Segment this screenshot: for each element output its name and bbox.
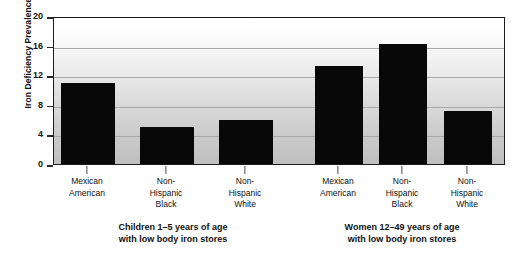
y-tick-label-0: 0 <box>38 159 43 169</box>
x-tick-mark-5 <box>466 166 467 174</box>
group-caption-line-1: Women 12–49 years of age <box>287 221 515 233</box>
bar-1 <box>140 127 194 164</box>
group-caption-children: Children 1–5 years of age with low body … <box>58 221 288 245</box>
bar-5 <box>444 111 492 164</box>
group-caption-line-2: with low body iron stores <box>58 233 288 245</box>
x-tick-mark-1 <box>165 166 166 174</box>
bar-4 <box>379 44 427 164</box>
x-label-line-1: Non- <box>421 176 513 188</box>
x-label-line-3: White <box>199 199 291 211</box>
x-axis-ticks <box>53 166 505 174</box>
x-label-line-3: White <box>421 199 513 211</box>
iron-deficiency-bar-chart: Iron Deficiency Prevalence (%) 0 4 8 12 … <box>0 0 515 265</box>
y-tick-label-8: 8 <box>38 100 43 110</box>
bar-3 <box>315 66 363 164</box>
plot-area <box>53 17 505 165</box>
group-caption-women: Women 12–49 years of age with low body i… <box>287 221 515 245</box>
group-caption-line-1: Children 1–5 years of age <box>58 221 288 233</box>
group-caption-line-2: with low body iron stores <box>287 233 515 245</box>
bar-2 <box>219 120 273 164</box>
y-tick-label-16: 16 <box>33 41 43 51</box>
x-tick-mark-0 <box>86 166 87 174</box>
y-tick-label-12: 12 <box>33 70 43 80</box>
y-tick-label-4: 4 <box>38 129 43 139</box>
x-label-non-hispanic-white-children: Non- Hispanic White <box>199 176 291 211</box>
x-tick-mark-4 <box>401 166 402 174</box>
group-captions: Children 1–5 years of age with low body … <box>53 221 505 261</box>
x-axis-labels: Mexican American Non- Hispanic Black Non… <box>53 176 505 218</box>
x-tick-mark-2 <box>244 166 245 174</box>
x-label-non-hispanic-white-women: Non- Hispanic White <box>421 176 513 211</box>
bar-0 <box>61 83 115 164</box>
y-axis-ticks: 0 4 8 12 16 20 <box>0 17 53 165</box>
x-label-line-1: Non- <box>199 176 291 188</box>
y-tick-label-20: 20 <box>33 11 43 21</box>
x-label-line-2: Hispanic <box>421 188 513 200</box>
x-label-line-2: Hispanic <box>199 188 291 200</box>
x-tick-mark-3 <box>337 166 338 174</box>
bars-layer <box>54 18 504 164</box>
